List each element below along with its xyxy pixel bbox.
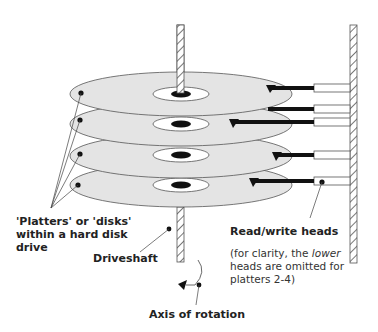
heads-leader-line — [310, 182, 322, 218]
note-suffix: heads are omitted for platters 2-4) — [230, 260, 344, 285]
head-arm-1-lower — [268, 105, 350, 113]
actuator-pivot-wall — [350, 25, 357, 263]
platters-label: 'Platters' or 'disks' within a hard disk… — [16, 215, 141, 254]
note-emphasis: lower — [312, 247, 341, 259]
note-prefix: (for clarity, the — [230, 247, 312, 259]
driveshaft-leader-line — [140, 229, 169, 252]
driveshaft-label: Driveshaft — [93, 252, 158, 265]
axis-of-rotation-label: Axis of rotation — [149, 308, 245, 321]
clarity-note: (for clarity, the lower heads are omitte… — [230, 247, 350, 286]
rotation-arrow-icon — [178, 260, 202, 305]
lower-driveshaft — [177, 207, 184, 262]
read-write-heads-label: Read/write heads — [230, 225, 338, 238]
